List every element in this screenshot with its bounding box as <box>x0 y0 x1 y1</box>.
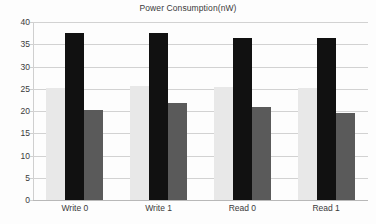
y-tick-label: 40 <box>4 17 30 27</box>
y-tick-label: 15 <box>4 128 30 138</box>
bar-series-2-read-1[interactable] <box>317 38 336 200</box>
y-tick-label: 20 <box>4 106 30 116</box>
x-tick-label: Write 0 <box>33 203 117 213</box>
bar-group <box>117 22 201 200</box>
bar-series-1-read-1[interactable] <box>298 88 317 200</box>
bar-series-1-read-0[interactable] <box>214 87 233 200</box>
bar-chart: Power Consumption(nW) 4035302520151050 W… <box>0 0 376 224</box>
bar-group <box>284 22 368 200</box>
plot-area <box>33 22 368 200</box>
x-axis-line <box>33 200 368 201</box>
bar-series-2-read-0[interactable] <box>233 38 252 200</box>
y-tick-label: 25 <box>4 84 30 94</box>
bar-group <box>201 22 285 200</box>
bar-series-2-write-1[interactable] <box>149 33 168 200</box>
y-tick-label: 35 <box>4 39 30 49</box>
bar-series-1-write-1[interactable] <box>130 86 149 200</box>
bar-group <box>33 22 117 200</box>
y-axis: 4035302520151050 <box>0 0 30 224</box>
bar-series-3-write-1[interactable] <box>168 103 187 200</box>
bar-series-3-write-0[interactable] <box>84 110 103 200</box>
y-tick-label: 30 <box>4 62 30 72</box>
y-tick-label: 0 <box>4 195 30 205</box>
bar-series-3-read-1[interactable] <box>336 113 355 200</box>
bar-series-3-read-0[interactable] <box>252 107 271 200</box>
bar-series-1-write-0[interactable] <box>46 88 65 200</box>
bar-series-2-write-0[interactable] <box>65 33 84 200</box>
y-tick-label: 10 <box>4 151 30 161</box>
x-tick-label: Write 1 <box>117 203 201 213</box>
chart-title: Power Consumption(nW) <box>0 3 376 13</box>
y-tick-label: 5 <box>4 173 30 183</box>
x-tick-label: Read 1 <box>284 203 368 213</box>
x-tick-label: Read 0 <box>201 203 285 213</box>
